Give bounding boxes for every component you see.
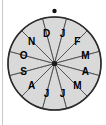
sector-label-february: F — [74, 36, 80, 47]
sector-label-december: D — [43, 28, 50, 39]
center-hub-dot — [52, 61, 57, 66]
pointer-dot — [52, 9, 56, 13]
sector-label-april: A — [82, 66, 89, 77]
sector-label-may: M — [73, 80, 81, 91]
sector-label-march: M — [81, 50, 89, 61]
sector-label-october: O — [20, 50, 28, 61]
spinner-wheel[interactable]: JFMAMJJASOND — [0, 0, 106, 125]
sector-label-august: A — [28, 80, 35, 91]
spinner-figure: JFMAMJJASOND — [0, 0, 106, 125]
sector-label-january: J — [60, 28, 66, 39]
sector-label-november: N — [28, 36, 35, 47]
sector-label-june: J — [60, 88, 66, 99]
sector-label-september: S — [20, 66, 27, 77]
sector-label-july: J — [44, 88, 50, 99]
